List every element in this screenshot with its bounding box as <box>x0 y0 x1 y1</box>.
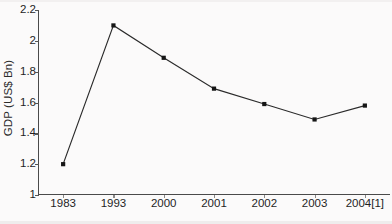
x-axis-tick-labels: 1983199320002001200220032004[1] <box>38 198 390 220</box>
data-point-marker <box>111 23 115 27</box>
data-point-marker <box>61 162 65 166</box>
y-tick-mark <box>35 133 39 134</box>
data-point-marker <box>312 117 316 121</box>
data-point-marker <box>262 102 266 106</box>
x-tick-label: 2004[1] <box>346 198 384 210</box>
y-tick-label: 2.2 <box>14 4 36 16</box>
x-tick-label: 2003 <box>302 198 328 210</box>
y-tick-label: 1.8 <box>14 66 36 78</box>
y-tick-mark <box>35 10 39 11</box>
y-tick-label: 1.2 <box>14 158 36 170</box>
gdp-series-line <box>63 25 365 164</box>
x-tick-label: 2001 <box>201 198 227 210</box>
y-tick-mark <box>35 103 39 104</box>
series-svg <box>38 10 390 195</box>
y-axis-tick-labels: 11.21.41.61.822.2 <box>10 0 36 224</box>
data-point-marker <box>162 56 166 60</box>
y-tick-mark <box>35 41 39 42</box>
x-tick-label: 2002 <box>251 198 277 210</box>
plot-area <box>38 10 390 195</box>
data-point-marker <box>363 103 367 107</box>
y-tick-label: 1 <box>14 189 36 201</box>
gdp-line-chart-figure: GDP (US$ Bn) 11.21.41.61.822.2 198319932… <box>0 0 392 224</box>
y-tick-label: 2 <box>14 35 36 47</box>
x-tick-label: 1993 <box>101 198 127 210</box>
y-tick-mark <box>35 72 39 73</box>
scan-edge-bottom <box>0 221 392 224</box>
x-tick-label: 2000 <box>151 198 177 210</box>
y-tick-mark <box>35 164 39 165</box>
y-tick-label: 1.4 <box>14 128 36 140</box>
scan-edge-top <box>0 0 392 2</box>
y-tick-mark <box>35 195 39 196</box>
x-tick-label: 1983 <box>50 198 76 210</box>
y-tick-label: 1.6 <box>14 97 36 109</box>
data-point-marker <box>212 87 216 91</box>
